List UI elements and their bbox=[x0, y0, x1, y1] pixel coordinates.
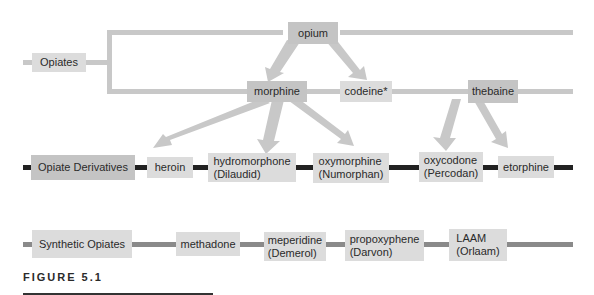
node-methadone: methadone bbox=[176, 232, 240, 256]
category-opiates: Opiates bbox=[32, 53, 86, 72]
arrow-morphine-oxymorphine bbox=[285, 96, 354, 146]
opium-line-left bbox=[107, 30, 283, 35]
arrow-opium-codeine bbox=[325, 38, 367, 80]
node-methadone-label: methadone bbox=[180, 238, 235, 251]
node-propoxyphene: propoxyphene (Darvon) bbox=[345, 230, 424, 261]
node-laam-label: LAAM bbox=[456, 232, 499, 245]
category-opiates-label: Opiates bbox=[40, 56, 78, 69]
node-laam: LAAM (Orlaam) bbox=[449, 229, 507, 261]
node-codeine: codeine* bbox=[340, 81, 392, 102]
node-opium: opium bbox=[288, 22, 338, 44]
arrow-thebaine-oxycodone bbox=[433, 99, 461, 151]
node-opium-label: opium bbox=[298, 27, 328, 40]
node-heroin: heroin bbox=[147, 157, 193, 178]
node-oxycodone: oxycodone (Percodan) bbox=[419, 152, 483, 182]
node-hydromorphone-label: hydromorphone bbox=[213, 155, 290, 168]
node-meperidine-brand: (Demerol) bbox=[268, 247, 322, 260]
node-meperidine: meperidine (Demerol) bbox=[264, 232, 326, 261]
node-heroin-label: heroin bbox=[155, 161, 186, 174]
node-hydromorphone-brand: (Dilaudid) bbox=[213, 168, 290, 181]
category-synthetic-opiates: Synthetic Opiates bbox=[32, 230, 132, 258]
node-oxycodone-brand: (Percodan) bbox=[424, 167, 478, 180]
node-thebaine: thebaine bbox=[468, 80, 518, 103]
arrow-opium-morphine bbox=[265, 40, 300, 82]
node-codeine-label: codeine* bbox=[345, 85, 388, 98]
node-oxymorphine: oxymorphine (Numorphan) bbox=[313, 153, 389, 183]
node-etorphine-label: etorphine bbox=[503, 161, 549, 174]
node-oxycodone-label: oxycodone bbox=[424, 154, 478, 167]
arrow-morphine-heroin bbox=[153, 98, 270, 148]
node-propoxyphene-brand: (Darvon) bbox=[350, 246, 420, 259]
category-synthetic-opiates-label: Synthetic Opiates bbox=[39, 238, 125, 251]
category-opiate-derivatives: Opiate Derivatives bbox=[31, 155, 135, 180]
node-oxymorphine-brand: (Numorphan) bbox=[319, 168, 384, 181]
arrow-morphine-hydromorphone bbox=[257, 100, 284, 154]
figure-label: FIGURE 5.1 bbox=[23, 271, 103, 283]
node-propoxyphene-label: propoxyphene bbox=[350, 233, 420, 246]
category-opiate-derivatives-label: Opiate Derivatives bbox=[38, 161, 128, 174]
arrow-thebaine-etorphine bbox=[473, 97, 508, 148]
opiates-bracket-vertical bbox=[107, 30, 112, 94]
node-morphine: morphine bbox=[247, 81, 307, 102]
node-hydromorphone: hydromorphone (Dilaudid) bbox=[208, 153, 296, 182]
opium-line-right bbox=[340, 30, 573, 35]
node-thebaine-label: thebaine bbox=[472, 85, 514, 98]
node-laam-brand: (Orlaam) bbox=[456, 245, 499, 258]
node-morphine-label: morphine bbox=[254, 85, 300, 98]
node-etorphine: etorphine bbox=[498, 156, 554, 178]
node-oxymorphine-label: oxymorphine bbox=[319, 155, 384, 168]
node-meperidine-label: meperidine bbox=[268, 234, 322, 247]
